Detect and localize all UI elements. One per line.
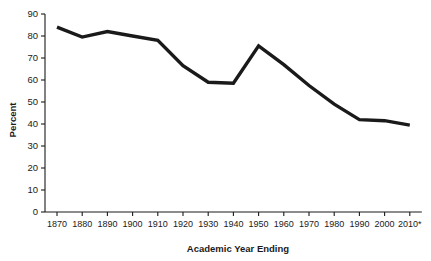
y-tick-label: 50 xyxy=(27,96,38,107)
data-series-line xyxy=(57,27,410,125)
x-tick-label: 1890 xyxy=(97,219,117,229)
chart-plot-area: 0102030405060708090 18701880189019001910… xyxy=(0,0,431,261)
x-axis: 1870188018901900191019201930194019501960… xyxy=(45,212,422,229)
y-axis-title: Percent xyxy=(7,102,18,138)
y-tick-label: 80 xyxy=(27,30,38,41)
line-chart-figure: 0102030405060708090 18701880189019001910… xyxy=(0,0,431,261)
y-tick-label: 60 xyxy=(27,74,38,85)
x-tick-label: 1920 xyxy=(173,219,193,229)
y-tick-label: 0 xyxy=(33,206,38,217)
x-tick-label: 1960 xyxy=(274,219,294,229)
x-tick-label: 1950 xyxy=(249,219,269,229)
x-tick-label: 1910 xyxy=(148,219,168,229)
x-tick-label: 2010* xyxy=(398,219,422,229)
y-tick-label: 40 xyxy=(27,118,38,129)
x-axis-title: Academic Year Ending xyxy=(187,243,289,254)
x-tick-label: 1990 xyxy=(349,219,369,229)
y-tick-label: 20 xyxy=(27,162,38,173)
x-tick-label: 1980 xyxy=(324,219,344,229)
y-tick-label: 70 xyxy=(27,52,38,63)
x-tick-label: 1870 xyxy=(47,219,67,229)
x-tick-label: 2000 xyxy=(375,219,395,229)
x-tick-label: 1930 xyxy=(198,219,218,229)
y-axis: 0102030405060708090 xyxy=(27,8,45,217)
y-tick-label: 10 xyxy=(27,184,38,195)
x-tick-label: 1900 xyxy=(123,219,143,229)
x-tick-label: 1940 xyxy=(223,219,243,229)
y-tick-label: 30 xyxy=(27,140,38,151)
x-tick-label: 1970 xyxy=(299,219,319,229)
y-tick-label: 90 xyxy=(27,8,38,19)
x-tick-label: 1880 xyxy=(72,219,92,229)
